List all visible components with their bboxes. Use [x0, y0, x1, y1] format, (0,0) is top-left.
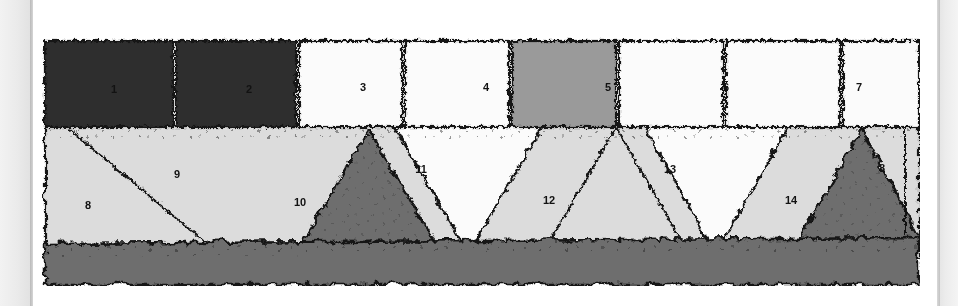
page-right-gutter: [940, 0, 958, 306]
page-right-gutter-line: [937, 0, 940, 306]
page-left-gutter: [0, 0, 30, 306]
block-1: [44, 40, 172, 126]
region-label-8-right: 8: [879, 162, 885, 174]
block-7: [725, 40, 839, 126]
region-label-1: 1: [111, 83, 117, 95]
region-label-5: 5: [605, 81, 611, 93]
region-label-11: 11: [415, 163, 427, 175]
region-label-9: 9: [174, 168, 180, 180]
region-label-14: 14: [785, 194, 798, 206]
region-label-6: 6: [723, 81, 729, 93]
block-2: [175, 40, 295, 126]
region-label-2: 2: [246, 83, 252, 95]
block-6: [618, 40, 722, 126]
region-label-7: 7: [856, 81, 862, 93]
region-label-12: 12: [543, 194, 555, 206]
block-5: [511, 40, 615, 126]
block-row-right-filler: [842, 40, 918, 126]
region-label-13: 13: [664, 163, 676, 175]
cross-section-figure: 1 2 3 4 5 6 7 8 9 10 11 12 13 14 8: [42, 36, 920, 286]
block-4: [404, 40, 508, 126]
region-label-10: 10: [294, 196, 306, 208]
upper-block-row: [44, 40, 918, 126]
page-left-gutter-line: [30, 0, 33, 306]
region-label-3: 3: [360, 81, 366, 93]
region-label-4: 4: [483, 81, 490, 93]
figure-page: 1 2 3 4 5 6 7 8 9 10 11 12 13 14 8: [0, 0, 958, 306]
block-3: [298, 40, 401, 126]
region-label-8-left: 8: [85, 199, 91, 211]
